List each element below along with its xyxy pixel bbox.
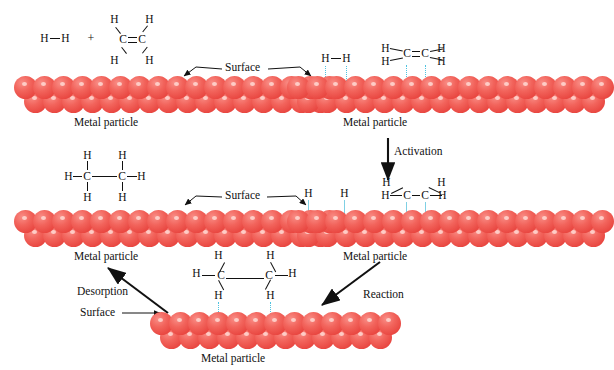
- surface-leader-left-top: [184, 67, 222, 76]
- metal-atom-highlight: [253, 318, 258, 322]
- atom-h: H: [266, 250, 275, 261]
- surface-leader-left-mid: [185, 196, 222, 205]
- bond-c-h: [430, 195, 442, 196]
- atom-c: C: [118, 34, 128, 45]
- metal-atom-highlight: [314, 82, 319, 86]
- atom-h: H: [382, 177, 391, 188]
- metal-atom-highlight: [193, 216, 198, 220]
- atom-h: H: [342, 53, 351, 64]
- metal-atom-highlight: [212, 82, 217, 86]
- atom-c: C: [402, 190, 412, 201]
- metal-particle-label-1: Metal particle: [74, 116, 138, 128]
- atom-c: C: [402, 48, 412, 59]
- metal-atom-highlight: [447, 216, 452, 220]
- metal-atom-highlight: [466, 216, 471, 220]
- metal-atom-highlight: [269, 216, 274, 220]
- bond-c-h: [390, 58, 403, 62]
- bond-c-c-double: [412, 51, 420, 52]
- metal-atom-highlight: [466, 82, 471, 86]
- metal-particle-label-4: Metal particle: [343, 250, 407, 262]
- metal-atom-highlight: [291, 318, 296, 322]
- metal-atom-highlight: [333, 82, 338, 86]
- bond-c-h: [121, 47, 127, 54]
- metal-atom-highlight: [599, 82, 604, 86]
- bond-c-h: [122, 161, 123, 170]
- metal-atom-highlight: [136, 216, 141, 220]
- surface-label-top: Surface: [225, 61, 260, 73]
- atom-h: H: [83, 192, 92, 203]
- metal-atom-highlight: [295, 216, 300, 220]
- atom-h: H: [214, 290, 223, 301]
- metal-atom-highlight: [542, 216, 547, 220]
- metal-atom-highlight: [504, 82, 509, 86]
- atom-h: H: [321, 53, 330, 64]
- atom-h: H: [437, 177, 446, 188]
- metal-atom-highlight: [174, 216, 179, 220]
- metal-atom-highlight: [98, 82, 103, 86]
- atom-h: H: [145, 14, 154, 25]
- bond-c-h: [202, 275, 215, 276]
- surface-leader-right-top: [268, 67, 311, 76]
- bond-c-c-double: [128, 37, 137, 38]
- bond-c-h: [115, 27, 121, 34]
- metal-atom-highlight: [409, 216, 414, 220]
- metal-atom-highlight: [561, 216, 566, 220]
- metal-atom-highlight: [177, 318, 182, 322]
- metal-atom-highlight: [447, 82, 452, 86]
- metal-atom-highlight: [41, 82, 46, 86]
- surface-label-middle: Surface: [225, 189, 260, 201]
- atom-h: H: [340, 188, 349, 199]
- metal-atom-highlight: [409, 82, 414, 86]
- metal-atom-highlight: [250, 82, 255, 86]
- metal-atom-highlight: [231, 216, 236, 220]
- bond-c-h: [73, 176, 82, 177]
- plus-sign: +: [86, 33, 96, 44]
- atom-c: C: [117, 171, 127, 182]
- metal-atom-highlight: [485, 82, 490, 86]
- atom-h: H: [192, 268, 201, 279]
- metal-atom-highlight: [580, 82, 585, 86]
- metal-atom-highlight: [215, 318, 220, 322]
- bond-h-h: [50, 38, 60, 39]
- metal-atom-highlight: [371, 216, 376, 220]
- atom-h: H: [64, 171, 73, 182]
- metal-particle-label-2: Metal particle: [343, 116, 407, 128]
- atom-h: H: [381, 190, 390, 201]
- bond-c-h: [390, 48, 403, 52]
- metal-atom-highlight: [60, 216, 65, 220]
- bond-c-h: [127, 176, 137, 177]
- metal-particle-label-3: Metal particle: [74, 250, 138, 262]
- reaction-label: Reaction: [363, 288, 404, 300]
- metal-atom-highlight: [523, 82, 528, 86]
- metal-atom-highlight: [352, 216, 357, 220]
- bond-c-h: [390, 195, 402, 196]
- metal-atom-highlight: [155, 82, 160, 86]
- bond-c-h: [142, 47, 148, 54]
- metal-atom-highlight: [117, 82, 122, 86]
- metal-atom-highlight: [250, 216, 255, 220]
- metal-atom-highlight: [193, 82, 198, 86]
- atom-h: H: [381, 56, 390, 67]
- metal-atom-highlight: [79, 216, 84, 220]
- metal-atom-highlight: [212, 216, 217, 220]
- metal-atom: [378, 312, 401, 335]
- metal-atom-highlight: [41, 216, 46, 220]
- atom-h: H: [304, 188, 313, 199]
- metal-atom-highlight: [22, 216, 27, 220]
- atom-h: H: [110, 55, 119, 66]
- metal-particle-4: [287, 210, 614, 247]
- atom-h: H: [83, 150, 92, 161]
- bond-c-c: [412, 195, 420, 196]
- metal-atom-highlight: [542, 82, 547, 86]
- metal-atom-highlight: [196, 318, 201, 322]
- metal-particle-5: [150, 312, 401, 349]
- metal-atom-highlight: [367, 318, 372, 322]
- bond-c-c: [226, 278, 264, 279]
- metal-atom-highlight: [234, 318, 239, 322]
- metal-atom-highlight: [60, 82, 65, 86]
- atom-h: H: [266, 290, 275, 301]
- metal-atom-highlight: [314, 216, 319, 220]
- metal-atom-highlight: [428, 82, 433, 86]
- atom-c: C: [420, 190, 430, 201]
- surface-leader-right-mid: [267, 196, 306, 205]
